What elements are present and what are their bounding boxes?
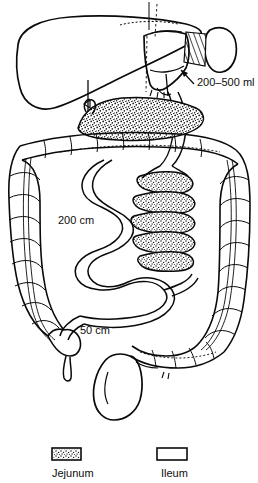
liver bbox=[17, 16, 202, 109]
legend-label-jejunum: Jejunum bbox=[52, 467, 94, 479]
legend-label-ileum: Ileum bbox=[161, 467, 188, 479]
annotation-jejunal-limb-length: 200 cm bbox=[58, 214, 94, 226]
descending-colon bbox=[9, 146, 64, 340]
legend: Jejunum Ileum bbox=[52, 448, 188, 479]
cecum bbox=[48, 329, 81, 356]
legend-item-jejunum: Jejunum bbox=[52, 448, 94, 479]
legend-swatch-ileum bbox=[157, 448, 187, 460]
stomach-pouch bbox=[144, 31, 189, 98]
legend-swatch-jejunum-texture bbox=[54, 450, 80, 459]
appendix bbox=[63, 356, 71, 381]
spleen bbox=[205, 28, 237, 73]
ascending-colon bbox=[200, 150, 250, 352]
rectum-bladder bbox=[93, 354, 169, 420]
anatomical-figure: 200–500 ml 200 cm 50 cm Jejunum Ileum bbox=[0, 0, 258, 483]
diagram-canvas: 200–500 ml 200 cm 50 cm Jejunum Ileum bbox=[0, 0, 258, 483]
legend-item-ileum: Ileum bbox=[157, 448, 188, 479]
pouch-volume-leader bbox=[181, 70, 194, 84]
jejunum-coils bbox=[131, 166, 195, 271]
annotation-ileal-limb-length: 50 cm bbox=[80, 324, 110, 336]
annotation-pouch-volume: 200–500 ml bbox=[197, 76, 255, 88]
